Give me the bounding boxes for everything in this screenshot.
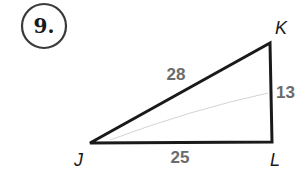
- problem-number: 9.: [34, 14, 55, 38]
- side-jk-label: 28: [167, 65, 186, 84]
- side-jl-label: 25: [171, 148, 190, 167]
- vertex-k-label: K: [275, 18, 288, 38]
- pencil-mark: [110, 93, 268, 140]
- vertex-l-label: L: [270, 150, 280, 170]
- triangle-diagram: 9. 28 13 25 J K L: [0, 0, 306, 172]
- problem-number-badge: 9.: [22, 4, 66, 48]
- triangle-jkl: [90, 43, 272, 143]
- side-kl-label: 13: [276, 83, 295, 102]
- vertex-j-label: J: [73, 150, 84, 170]
